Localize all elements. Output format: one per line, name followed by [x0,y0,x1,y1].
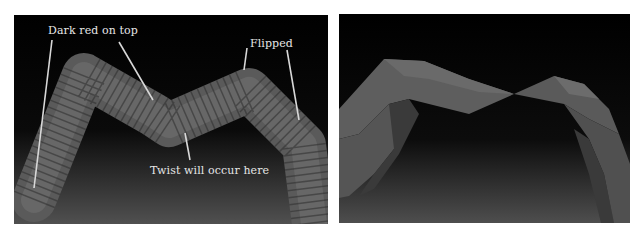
label-dark-red-on-top: Dark red on top [48,24,138,37]
label-twist-will-occur-here: Twist will occur here [150,164,269,177]
low-poly-ribbon-render [339,14,630,223]
right-render-panel [339,14,630,223]
left-render-panel: Dark red on top Flipped Twist will occur… [14,15,328,224]
label-flipped: Flipped [250,37,293,50]
